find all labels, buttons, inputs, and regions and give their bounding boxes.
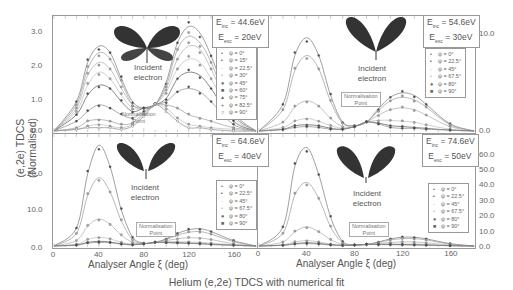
data-point <box>306 126 308 128</box>
legend-entry: ●ψ = 80° <box>433 216 464 223</box>
data-point <box>188 86 190 88</box>
data-point <box>109 87 111 89</box>
data-point <box>120 219 122 221</box>
data-point <box>165 108 167 110</box>
normalisation-point-label: NormalisationPoint <box>120 111 158 124</box>
data-point <box>365 243 367 245</box>
marker-icon: ◦ <box>433 208 441 215</box>
xtick: 40 <box>302 249 311 258</box>
data-point <box>176 107 178 109</box>
marker-icon: ● <box>221 213 229 220</box>
xtick: 80 <box>139 250 148 259</box>
data-point <box>188 69 190 71</box>
data-point <box>306 57 308 59</box>
data-point <box>176 117 178 119</box>
ytick: 0.0 <box>31 243 42 252</box>
xtick: 160 <box>228 250 241 259</box>
data-point <box>199 64 201 66</box>
ytick: 60.0 <box>479 150 495 159</box>
data-point <box>401 95 403 97</box>
butterfly-diagram-icon <box>113 141 179 179</box>
data-point <box>232 123 234 125</box>
data-point <box>109 120 111 122</box>
data-point <box>306 118 308 120</box>
data-point <box>401 106 403 108</box>
data-point <box>210 78 212 80</box>
data-point <box>282 103 284 105</box>
data-point <box>330 215 332 217</box>
data-point <box>294 192 296 194</box>
data-point <box>318 126 320 128</box>
data-point <box>188 31 190 33</box>
data-point <box>120 128 122 130</box>
data-point <box>199 243 201 245</box>
data-point <box>353 125 355 127</box>
data-point <box>413 109 415 111</box>
marker-icon: ▪ <box>430 58 438 65</box>
data-point <box>282 244 284 246</box>
legend: •ψ = 0°▪ψ = 22.5°·ψ = 45°◦ψ = 67.5°●ψ = … <box>428 183 469 233</box>
energy-box: Einc = 44.6eV Eexc = 20eV <box>212 15 269 48</box>
data-point <box>98 73 100 75</box>
data-point <box>318 173 320 175</box>
legend-entry: ●ψ = 45° <box>221 80 252 87</box>
legend-entry: ▪ψ = 22.5° <box>433 193 464 200</box>
ytick: 3.0 <box>31 27 42 36</box>
legend-entry: ●ψ = 80° <box>221 213 252 220</box>
data-point <box>188 228 190 230</box>
ytick: 10.0 <box>27 205 43 214</box>
marker-icon: ● <box>433 216 441 223</box>
legend-entry: ·ψ = 22.5° <box>221 65 252 72</box>
marker-icon: ▪ <box>221 57 229 64</box>
data-point <box>154 103 156 105</box>
ytick: 0.0 <box>479 242 490 251</box>
data-point <box>109 127 111 129</box>
data-point <box>318 120 320 122</box>
data-point <box>389 239 391 241</box>
marker-icon: • <box>433 186 441 193</box>
data-point <box>120 207 122 209</box>
data-point <box>109 68 111 70</box>
ytick: 10.0 <box>479 227 495 236</box>
data-point <box>87 170 89 172</box>
data-point <box>75 232 77 234</box>
ytick: 10.0 <box>479 29 495 38</box>
data-point <box>306 227 308 229</box>
data-point <box>210 233 212 235</box>
xtick: 0 <box>256 249 260 258</box>
incident-electron-label: Incidentelectron <box>120 63 176 83</box>
data-point <box>318 243 320 245</box>
legend-entry: ▪ψ = 22.5° <box>430 58 461 65</box>
legend-entry: +ψ = 82.5° <box>221 102 252 109</box>
marker-icon: ■ <box>430 88 438 95</box>
data-point <box>306 150 308 152</box>
marker-icon: ◦ <box>430 73 438 80</box>
xtick: 40 <box>94 250 103 259</box>
ytick: 0.0 <box>31 126 42 135</box>
legend-entry: ◦ψ = 30° <box>221 72 252 79</box>
butterfly-diagram-icon <box>333 143 399 183</box>
data-point <box>389 244 391 246</box>
data-point <box>342 128 344 130</box>
legend-entry: ■ψ = 90° <box>430 88 461 95</box>
data-point <box>98 179 100 181</box>
data-point <box>199 45 201 47</box>
incident-electron-label: Incidentelectron <box>339 189 395 209</box>
data-point <box>401 237 403 239</box>
data-point <box>75 107 77 109</box>
data-point <box>75 128 77 130</box>
data-point <box>294 230 296 232</box>
data-point <box>425 106 427 108</box>
data-point <box>87 120 89 122</box>
data-point <box>188 55 190 57</box>
data-point <box>330 128 332 130</box>
data-point <box>165 242 167 244</box>
data-point <box>306 240 308 242</box>
data-point <box>342 122 344 124</box>
data-point <box>294 51 296 53</box>
data-point <box>98 237 100 239</box>
data-point <box>210 101 212 103</box>
data-point <box>232 240 234 242</box>
data-point <box>294 67 296 69</box>
data-point <box>306 243 308 245</box>
